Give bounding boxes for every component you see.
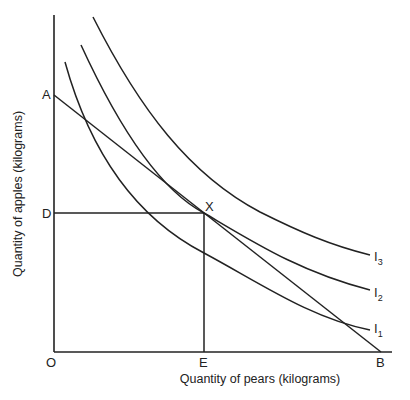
curve-label-i2: I2 bbox=[374, 286, 383, 299]
point-label-e: E bbox=[199, 356, 208, 369]
indifference-curve-i3 bbox=[93, 17, 370, 255]
curve-label-i3: I3 bbox=[374, 250, 383, 263]
budget-line-ab bbox=[54, 95, 381, 352]
point-label-d: D bbox=[42, 207, 51, 220]
x-axis-label: Quantity of pears (kilograms) bbox=[140, 372, 380, 386]
origin-label: O bbox=[46, 356, 56, 369]
point-label-a: A bbox=[42, 88, 51, 101]
point-label-x: X bbox=[205, 200, 214, 213]
indifference-curve-i1 bbox=[65, 62, 370, 330]
indifference-curve-i2 bbox=[81, 45, 370, 290]
y-axis-label: Quantity of apples (kilograms) bbox=[11, 117, 25, 277]
point-label-b: B bbox=[376, 356, 385, 369]
curve-label-i1: I1 bbox=[374, 322, 383, 335]
